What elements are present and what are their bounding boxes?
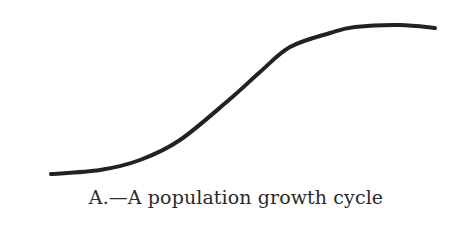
- sigmoid-curve-line: [51, 25, 435, 174]
- growth-curve: [0, 0, 468, 185]
- population-growth-figure: A.—A population growth cycle: [0, 0, 468, 230]
- figure-caption: A.—A population growth cycle: [0, 186, 468, 208]
